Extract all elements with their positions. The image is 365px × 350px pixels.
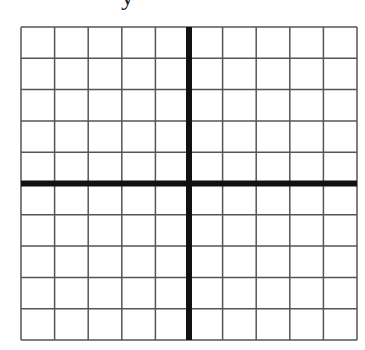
coordinate-grid	[0, 0, 365, 350]
